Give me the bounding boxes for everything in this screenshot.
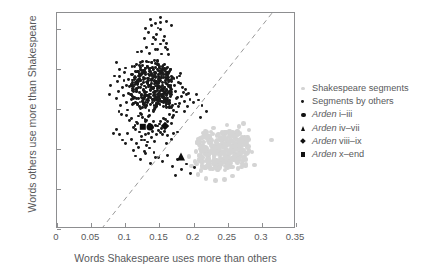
x-ticklabel: 0.25 <box>217 231 236 242</box>
legend: Shakespeare segmentsSegments by othersAr… <box>299 82 423 161</box>
y-tick <box>57 69 61 70</box>
legend-item[interactable]: Arden iv–vii <box>299 122 423 135</box>
x-ticklabel: 0.1 <box>118 231 131 242</box>
y-tick <box>57 189 61 190</box>
x-ticklabel: 0.3 <box>254 231 267 242</box>
y-tick <box>57 149 61 150</box>
scatter-plot-figure: 0.050.10.150.20.250.3 Words others use m… <box>0 0 423 278</box>
legend-item-prefix: Arden <box>312 123 339 133</box>
x-tick <box>57 223 58 227</box>
legend-item-label: Segments by others <box>312 96 394 106</box>
legend-item[interactable]: Arden viii–ix <box>299 135 423 148</box>
legend-marker-square-icon <box>301 152 305 156</box>
x-tick <box>91 223 92 227</box>
y-tick <box>57 109 61 110</box>
legend-item-prefix: Arden <box>312 109 339 119</box>
arden-marker-triangle <box>177 152 185 160</box>
legend-marker-dot-small-icon <box>301 100 304 103</box>
x-tick <box>262 223 263 227</box>
x-ticklabel: 0.2 <box>186 231 199 242</box>
arden-marker-diamond <box>161 122 169 130</box>
arden-markers-layer <box>57 13 294 227</box>
arden-marker-circle <box>147 124 154 131</box>
x-tick <box>194 223 195 227</box>
x-ticklabel: 0 <box>53 231 58 242</box>
legend-item[interactable]: Segments by others <box>299 95 423 108</box>
legend-item-label: x–end <box>339 149 364 159</box>
legend-marker-diamond-icon <box>301 138 306 143</box>
y-tick <box>57 29 61 30</box>
legend-item-label: Shakespeare segments <box>312 83 409 93</box>
legend-marker-dot-gray-icon <box>301 87 305 91</box>
arden-marker-square <box>139 124 145 130</box>
legend-item-label: iv–vii <box>339 123 359 133</box>
y-tick <box>57 229 61 230</box>
legend-item-prefix: Arden <box>312 149 339 159</box>
x-ticklabel: 0.05 <box>81 231 100 242</box>
x-tick <box>159 223 160 227</box>
x-tick <box>125 223 126 227</box>
legend-item-prefix: Arden <box>312 136 339 146</box>
legend-marker-triangle-icon <box>301 126 305 131</box>
x-tick <box>296 223 297 227</box>
legend-marker-dot-big-icon <box>301 113 306 118</box>
y-axis-title: Words others use more than Shakespeare <box>26 0 38 239</box>
x-ticklabel: 0.15 <box>149 231 168 242</box>
plot-area <box>56 12 295 228</box>
legend-item-label: viii–ix <box>339 136 361 146</box>
x-axis-title: Words Shakespeare uses more than others <box>56 252 295 264</box>
x-ticklabel: 0.35 <box>286 231 305 242</box>
legend-item-label: i–iii <box>339 109 352 119</box>
legend-item[interactable]: Arden x–end <box>299 148 423 161</box>
x-tick <box>228 223 229 227</box>
legend-item[interactable]: Arden i–iii <box>299 108 423 121</box>
legend-item[interactable]: Shakespeare segments <box>299 82 423 95</box>
